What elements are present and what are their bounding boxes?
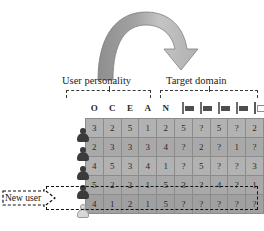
cell-user-1-domain-5: 2 [246,118,264,137]
bracket-tick [209,86,210,92]
curved-arrow-icon [88,8,214,82]
cell-user-4-domain-2: ? [192,175,210,194]
cell-user-3-domain-1: ? [175,156,193,175]
domain-icon-2 [200,102,202,114]
group-caption-user-personality: User personality [62,75,131,86]
cell-user-2-personality-2: 3 [103,137,121,156]
cell-user-4-personality-5: 5 [157,175,175,194]
cell-user-2-domain-4: 1 [228,137,246,156]
group-caption-target-domain: Target domain [166,75,227,86]
cell-user-1-domain-4: ? [228,118,246,137]
cell-user-2-domain-5: ? [246,137,264,156]
cell-user-3-personality-4: 4 [139,156,157,175]
row-avatar-new-user [68,194,85,213]
cell-user-4-personality-2: 2 [103,175,121,194]
cell-user-2-domain-1: ? [175,137,193,156]
cell-user-1-personality-3: 5 [121,118,139,137]
header-avatar-spacer [68,99,85,118]
domain-icon-4 [236,102,238,114]
cell-user-1-domain-3: 5 [210,118,228,137]
cell-user-4-personality-4: 1 [139,175,157,194]
header-domain-4 [228,99,246,118]
header-letter-o: O [85,99,103,118]
bracket-user-personality [66,90,151,98]
bracket-tick [109,86,110,92]
domain-icon-5 [254,102,256,114]
header-letter-e: E [121,99,139,118]
cell-user-4-domain-5: 1 [246,175,264,194]
domain-icon-3 [218,102,220,114]
cell-new-user-domain-1: ? [175,194,193,213]
header-domain-2 [192,99,210,118]
header-letter-a: A [139,99,157,118]
cell-user-3-personality-2: 5 [103,156,121,175]
rating-matrix: O C E A N 325125?5?223334?2?1?45341?5??3… [68,99,264,214]
cell-user-3-domain-3: ? [210,156,228,175]
row-avatar-user-2 [68,137,85,156]
cell-new-user-domain-4: ? [228,194,246,213]
cell-user-3-personality-5: 1 [157,156,175,175]
bracket-target-domain [160,90,258,98]
row-avatar-user-3 [68,156,85,175]
cell-user-4-domain-3: 4 [210,175,228,194]
cell-user-2-personality-4: 3 [139,137,157,156]
cell-user-2-domain-2: 2 [192,137,210,156]
cell-new-user-personality-2: 1 [103,194,121,213]
matrix-row: 23334?2?1? [68,137,264,156]
domain-icon-1 [182,102,184,114]
cell-user-1-personality-1: 3 [85,118,103,137]
new-user-label: New user [5,192,41,204]
cell-user-1-personality-4: 1 [139,118,157,137]
cell-new-user-personality-5: 5 [157,194,175,213]
cell-user-1-domain-1: 5 [175,118,193,137]
matrix-row: 45341?5??3 [68,156,264,175]
cell-user-4-domain-1: 3 [175,175,193,194]
cell-new-user-domain-5: ? [246,194,264,213]
cell-user-3-personality-3: 3 [121,156,139,175]
cell-user-1-domain-2: ? [192,118,210,137]
matrix-row: 325125?5?2 [68,118,264,137]
cell-user-1-personality-2: 2 [103,118,121,137]
cell-new-user-domain-3: ? [210,194,228,213]
cell-user-2-personality-3: 3 [121,137,139,156]
cell-user-2-personality-5: 4 [157,137,175,156]
row-avatar-user-4 [68,175,85,194]
cell-user-4-personality-3: 2 [121,175,139,194]
row-avatar-user-1 [68,118,85,137]
matrix-header-row: O C E A N [68,99,264,118]
avatar-body [77,209,89,218]
header-domain-5 [246,99,264,118]
cell-user-3-domain-4: ? [228,156,246,175]
cell-user-3-domain-2: 5 [192,156,210,175]
matrix-body: 325125?5?223334?2?1?45341?5??3522153?4?1… [68,118,264,213]
cell-new-user-domain-2: ? [192,194,210,213]
cell-user-2-domain-3: ? [210,137,228,156]
cell-user-4-domain-4: ? [228,175,246,194]
cell-user-3-domain-5: 3 [246,156,264,175]
header-domain-3 [210,99,228,118]
matrix-row-new-user: 41215????? [68,194,264,213]
cell-new-user-personality-3: 2 [121,194,139,213]
cell-user-1-personality-5: 2 [157,118,175,137]
cell-new-user-personality-4: 1 [139,194,157,213]
header-letter-c: C [103,99,121,118]
header-letter-n: N [157,99,175,118]
matrix-row: 522153?4?1 [68,175,264,194]
header-domain-1 [175,99,193,118]
figure-canvas: User personality Target domain O C E A N… [0,0,264,231]
